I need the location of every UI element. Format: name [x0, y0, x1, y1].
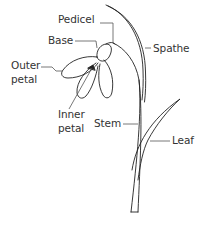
label-leaf: Leaf: [172, 134, 194, 147]
label-outer-petal-line1: Outer: [11, 59, 40, 72]
inner-petal-leader: [69, 68, 92, 109]
label-inner-petal-line1: Inner: [58, 108, 85, 121]
base-leader: [75, 41, 97, 48]
outer-petal-bottom-left: [77, 63, 98, 98]
pedicel-leader: [100, 23, 113, 43]
spathe-shape: [106, 5, 143, 100]
outer-petal-leader: [41, 67, 63, 71]
snowdrop-diagram: Pedicel Base Spathe Outer petal Inner pe…: [0, 0, 204, 235]
label-spathe: Spathe: [153, 42, 189, 55]
label-base: Base: [48, 34, 73, 47]
outer-petal-right: [99, 60, 113, 98]
base-shape: [97, 44, 112, 61]
label-stem: Stem: [94, 117, 121, 130]
label-outer-petal-line2: petal: [11, 73, 37, 86]
label-inner-petal-line2: petal: [58, 122, 84, 135]
label-pedicel: Pedicel: [58, 13, 94, 26]
